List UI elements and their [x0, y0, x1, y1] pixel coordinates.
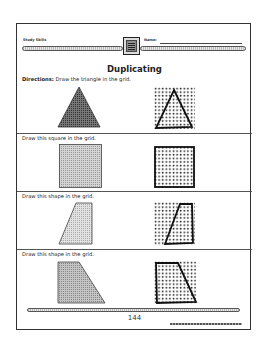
copyright-note: [170, 323, 242, 325]
page-title: Duplicating: [17, 64, 252, 74]
worksheet-page: Study Skills Name: Duplicating Direction…: [16, 23, 251, 330]
model-shape-2: [57, 261, 107, 305]
grid-square[interactable]: [154, 146, 196, 189]
section-divider: [17, 133, 252, 134]
section-divider: [17, 191, 252, 192]
instruction-shape-2: Draw this shape in the grid.: [22, 251, 94, 257]
footer-bar: [27, 308, 240, 312]
header-bar-right: [140, 46, 246, 51]
instruction-square: Draw this square in the grid.: [22, 135, 96, 141]
header-bar-left: [22, 46, 123, 51]
subject-label: Study Skills: [23, 38, 46, 42]
name-label: Name:: [144, 38, 157, 42]
model-shape-1: [57, 202, 99, 246]
directions-prefix: Directions:: [22, 76, 54, 82]
directions-text: Directions: Draw the triangle in the gri…: [22, 76, 131, 82]
grid-shape-1[interactable]: [154, 202, 196, 246]
name-field-line[interactable]: [160, 43, 242, 44]
page-number: 144: [17, 314, 252, 322]
grid-shape-2[interactable]: [154, 261, 198, 305]
grid-triangle[interactable]: [154, 87, 196, 131]
model-square: [59, 144, 103, 189]
publisher-logo-icon: [123, 37, 140, 55]
directions-body: Draw the triangle in the grid.: [54, 76, 131, 82]
section-divider: [17, 249, 252, 250]
instruction-shape-1: Draw this shape in the grid.: [22, 193, 94, 199]
model-triangle: [57, 86, 102, 130]
